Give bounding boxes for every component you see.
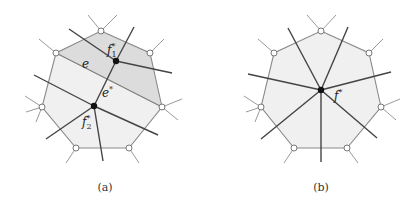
label-f1: f1* xyxy=(106,42,117,59)
diagram-canvas: f1* e e* f2* (a) xyxy=(0,0,418,203)
dual-vertex-f2 xyxy=(91,103,97,109)
label-f2: f2* xyxy=(81,114,92,131)
panel-b: f* (b) xyxy=(244,15,400,194)
label-e: e xyxy=(82,57,89,71)
dual-vertex-f xyxy=(318,87,324,93)
caption-a: (a) xyxy=(97,181,112,194)
caption-b: (b) xyxy=(313,181,329,194)
panel-a: f1* e e* f2* (a) xyxy=(25,15,182,194)
